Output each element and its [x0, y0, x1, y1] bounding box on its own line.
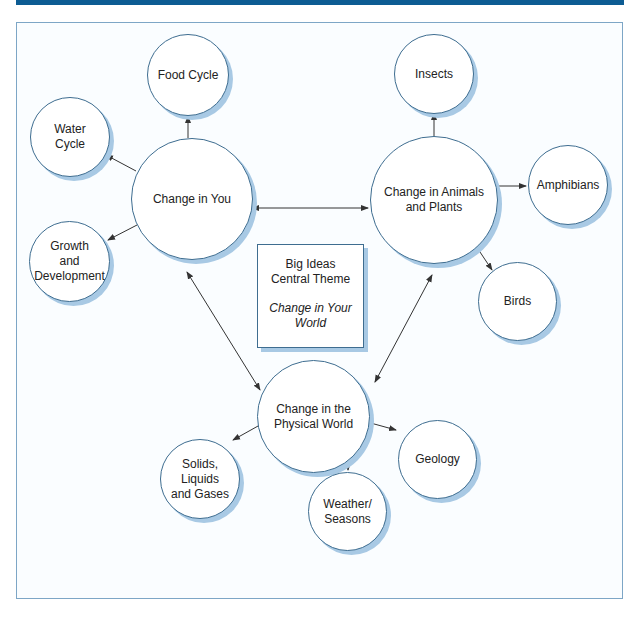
hub-label-line2: and Plants [380, 200, 488, 215]
leaf-label: Geology [411, 452, 464, 467]
theme-italic-line1: Change in Your [258, 301, 363, 316]
theme-subtitle: Central Theme [258, 272, 363, 287]
leaf-label: Food Cycle [154, 68, 223, 83]
leaf-birds: Birds [478, 262, 557, 341]
leaf-weather-seasons: Weather/ Seasons [308, 472, 387, 551]
leaf-label-line1: Weather/ [319, 497, 375, 512]
leaf-label-line1: Solids, [167, 457, 233, 472]
leaf-label: Insects [411, 67, 457, 82]
leaf-food-cycle: Food Cycle [147, 34, 229, 116]
leaf-solids-liquids-gases: Solids, Liquids and Gases [160, 439, 240, 519]
hub-label-line1: Change in Animals [380, 185, 488, 200]
leaf-label-line1: Water [50, 122, 90, 137]
leaf-label-line2: Seasons [319, 512, 375, 527]
leaf-label-line3: Development [30, 269, 109, 284]
leaf-label-line2: Liquids [167, 472, 233, 487]
theme-title: Big Ideas [258, 257, 363, 272]
hub-label: Change in You [149, 192, 235, 207]
theme-italic-line2: World [258, 316, 363, 331]
hub-change-in-you: Change in You [131, 138, 253, 260]
leaf-insects: Insects [394, 34, 474, 114]
leaf-label-line2: Cycle [50, 137, 90, 152]
hub-change-physical-world: Change in the Physical World [257, 360, 370, 473]
central-theme-box: Big Ideas Central Theme Change in Your W… [257, 244, 364, 348]
leaf-label-line2: and [30, 254, 109, 269]
hub-change-in-animals-plants: Change in Animals and Plants [370, 136, 498, 264]
leaf-growth-development: Growth and Development [29, 221, 110, 302]
leaf-label-line1: Growth [30, 239, 109, 254]
leaf-label: Amphibians [533, 178, 604, 193]
leaf-label-line3: and Gases [167, 487, 233, 502]
leaf-water-cycle: Water Cycle [30, 97, 110, 177]
leaf-geology: Geology [398, 420, 477, 499]
hub-label-line2: Physical World [270, 417, 357, 432]
leaf-label: Birds [500, 294, 535, 309]
leaf-amphibians: Amphibians [528, 145, 608, 225]
hub-label-line1: Change in the [270, 402, 357, 417]
